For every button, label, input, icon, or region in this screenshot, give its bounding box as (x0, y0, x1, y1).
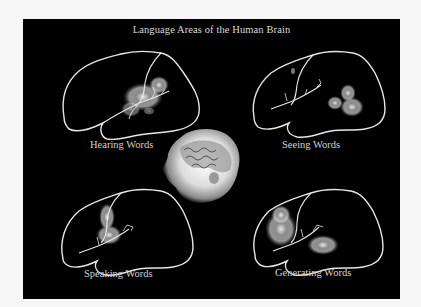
head-render (163, 129, 239, 203)
caption-generating: Generating Words (275, 267, 347, 278)
brain-diagrams (23, 19, 400, 299)
caption-hearing: Hearing Words (90, 139, 130, 150)
brain-hearing (63, 52, 199, 140)
caption-speaking: Speaking Words (84, 268, 150, 279)
caption-seeing: Seeing Words (282, 139, 336, 150)
page: Language Areas of the Human Brain (0, 0, 421, 307)
brain-seeing (253, 52, 385, 138)
brain-generating (254, 190, 383, 276)
figure-panel: Language Areas of the Human Brain (23, 19, 400, 299)
brain-speaking (62, 190, 193, 276)
